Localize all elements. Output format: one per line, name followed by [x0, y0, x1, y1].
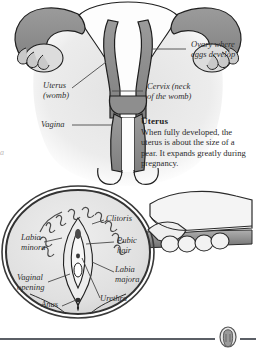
label-vagina: Vagina [41, 120, 65, 130]
label-urethra: Urethra [100, 294, 127, 304]
footer-rule-left [0, 338, 215, 340]
label-uterus: Uterus (womb) [43, 81, 69, 100]
clitoris [75, 229, 81, 239]
vagina-left-wall [111, 114, 122, 172]
urethra-opening [76, 254, 80, 259]
uterus-illustration: Ovary where eggs develop Cervix (neck of… [0, 0, 256, 186]
label-labia-majora: Labia majora [115, 265, 140, 284]
label-vaginal-opening: Vaginal opening [17, 273, 44, 292]
vaginal-canal [122, 118, 134, 172]
page-root: Ovary where eggs develop Cervix (neck of… [0, 0, 256, 348]
label-anus: Anus [41, 300, 58, 310]
label-cervix: Cervix (neck of the womb) [147, 82, 191, 101]
label-pubic-hair: Pubic hair [117, 236, 137, 255]
page-edge-mark: a [0, 148, 4, 157]
footer-rule-right [240, 338, 256, 340]
uterus-note-block: Uterus When fully developed, the uterus … [141, 116, 253, 169]
label-clitoris: Clitoris [106, 214, 132, 224]
label-labia-minora: Labia minora [21, 233, 46, 252]
anus [75, 298, 80, 302]
vaginal-opening [74, 263, 82, 277]
label-ovary: Ovary where eggs develop [191, 40, 235, 59]
decorative-medallion-icon [218, 326, 238, 348]
uterus-note-body: When fully developed, the uterus is abou… [141, 127, 253, 169]
uterus-note-heading: Uterus [141, 116, 253, 127]
cervix [109, 96, 146, 114]
